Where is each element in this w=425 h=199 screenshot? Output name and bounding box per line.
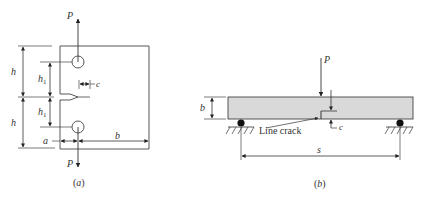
dim-h1-upper-label: h1 xyxy=(38,73,47,86)
lower-load-label: P xyxy=(66,158,73,169)
dim-c-label: c xyxy=(339,122,343,132)
dim-h-lower-label: h xyxy=(11,117,16,128)
figure-b-three-point-bending-beam: b P c Line crack xyxy=(200,54,413,190)
figure-a-compact-tension-specimen: P P h h h1 h1 c a b xyxy=(11,10,149,189)
load-label: P xyxy=(323,54,330,65)
left-ground-hatch xyxy=(226,127,254,134)
dim-b-label: b xyxy=(115,130,120,141)
dim-b-label: b xyxy=(200,102,205,113)
crack-label: Line crack xyxy=(259,125,301,136)
figure-a-caption: (a) xyxy=(73,177,85,189)
dim-c-label: c xyxy=(96,79,100,89)
dim-a-label: a xyxy=(43,135,48,146)
upper-load-label: P xyxy=(66,10,73,21)
dim-h-upper-label: h xyxy=(11,66,16,77)
dim-h1-lower-label: h1 xyxy=(38,106,47,119)
left-roller-support xyxy=(237,119,244,126)
dim-s-label: s xyxy=(317,144,321,155)
diagram-canvas: P P h h h1 h1 c a b xyxy=(0,0,425,199)
figure-b-caption: (b) xyxy=(314,178,326,190)
right-ground-hatch xyxy=(385,127,413,134)
specimen-outline xyxy=(60,46,149,149)
right-roller-support xyxy=(396,119,403,126)
